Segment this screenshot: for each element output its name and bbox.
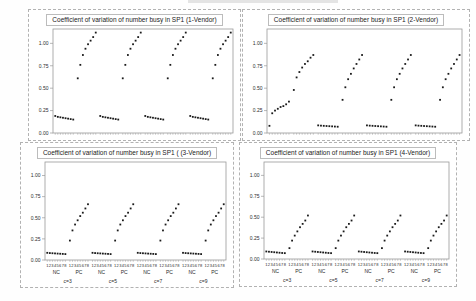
data-point: [222, 43, 224, 45]
data-point: [348, 223, 350, 225]
x-tick-digit: 8: [223, 263, 226, 268]
data-point: [205, 240, 207, 242]
data-point: [192, 116, 194, 118]
x-tick-digit: 8: [132, 263, 135, 268]
data-point: [289, 247, 291, 249]
data-point: [438, 226, 440, 228]
data-point: [99, 253, 101, 255]
data-point: [384, 240, 386, 242]
data-point: [69, 240, 71, 242]
x-tick-digit: 8: [446, 262, 449, 267]
data-point: [169, 64, 171, 66]
data-point: [85, 208, 87, 210]
data-point: [450, 68, 452, 70]
data-point: [130, 208, 132, 210]
data-point: [361, 251, 363, 253]
data-point: [95, 32, 97, 34]
data-point: [302, 223, 304, 225]
data-point: [386, 126, 388, 128]
data-point: [218, 212, 220, 214]
data-point: [328, 252, 330, 254]
data-point: [429, 125, 431, 127]
data-point: [298, 71, 300, 73]
data-point: [434, 126, 436, 128]
data-point: [456, 59, 458, 61]
scatter-plot-2-vendor: 1.000.750.500.250.00: [243, 26, 469, 140]
data-point: [64, 253, 66, 255]
chart-title-1-vendor: Coefficient of variation of number busy …: [46, 14, 222, 26]
data-point: [343, 231, 345, 233]
figure-page: Coefficient of variation of number busy …: [0, 0, 476, 301]
data-point: [107, 253, 109, 255]
subgroup-label: NC: [188, 269, 196, 275]
y-tick-label: 0.00: [250, 256, 260, 262]
data-point: [381, 247, 383, 249]
y-tick-label: 0.75: [39, 63, 49, 69]
group-label: c=9: [422, 277, 430, 283]
data-point: [293, 89, 295, 91]
data-point: [227, 36, 229, 38]
data-point: [215, 215, 217, 217]
data-point: [312, 251, 314, 253]
data-point: [85, 48, 87, 50]
data-point: [435, 231, 437, 233]
data-point: [390, 99, 392, 101]
data-point: [356, 63, 358, 65]
subgroup-label: NC: [98, 269, 106, 275]
x-tick-digit: 8: [284, 262, 287, 267]
x-tick-digit: 8: [155, 263, 158, 268]
group-label: c=5: [329, 277, 337, 283]
data-point: [415, 124, 417, 126]
data-point: [344, 86, 346, 88]
data-point: [212, 219, 214, 221]
data-point: [410, 54, 412, 56]
data-point: [420, 252, 422, 254]
data-point: [214, 64, 216, 66]
data-point: [279, 252, 281, 254]
data-point: [152, 117, 154, 119]
data-point: [90, 40, 92, 42]
data-point: [110, 253, 112, 255]
data-point: [400, 215, 402, 217]
data-point: [409, 251, 411, 253]
data-point: [396, 78, 398, 80]
x-tick-digit: 8: [87, 263, 90, 268]
x-tick-digit: 8: [376, 262, 379, 267]
data-point: [127, 54, 129, 56]
data-point: [433, 235, 435, 237]
data-point: [147, 253, 149, 255]
data-point: [114, 240, 116, 242]
data-point: [402, 68, 404, 70]
data-point: [372, 125, 374, 127]
data-point: [265, 251, 267, 253]
data-point: [271, 112, 273, 114]
data-point: [145, 253, 147, 255]
data-point: [62, 117, 64, 119]
x-tick-digit: 8: [307, 262, 310, 267]
data-point: [366, 251, 368, 253]
y-tick-label: 0.25: [250, 235, 260, 241]
data-point: [320, 251, 322, 253]
data-point: [383, 126, 385, 128]
group-label: c=3: [64, 278, 72, 284]
data-point: [102, 253, 104, 255]
data-point: [273, 251, 275, 253]
data-point: [117, 119, 119, 121]
scan-artifact: [188, 0, 338, 3]
chart-title-4-vendor: Coefficient of variation of number busy …: [260, 147, 436, 159]
data-point: [172, 54, 174, 56]
data-point: [92, 36, 94, 38]
subgroup-label: NC: [411, 268, 419, 274]
data-point: [205, 118, 207, 120]
plot-box: [53, 29, 233, 133]
data-point: [144, 115, 146, 117]
data-point: [453, 63, 455, 65]
subgroup-label: NC: [364, 268, 372, 274]
data-point: [312, 54, 314, 56]
data-point: [281, 252, 283, 254]
group-label: c=7: [154, 278, 162, 284]
group-label: c=5: [109, 278, 117, 284]
data-point: [407, 59, 409, 61]
y-tick-label: 0.50: [253, 85, 263, 91]
data-point: [135, 40, 137, 42]
